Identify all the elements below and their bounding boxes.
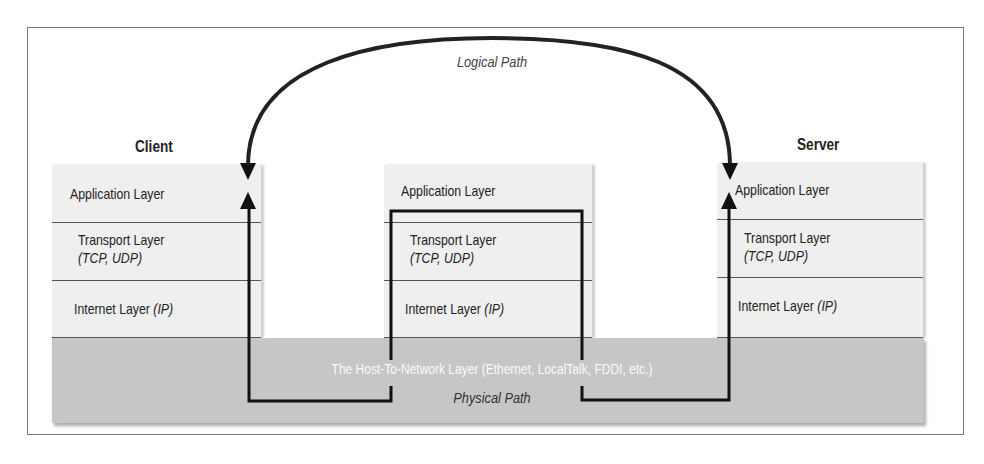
physical-path-client-segment [249,206,391,401]
arrowhead-up-server-icon [721,192,737,209]
arrowhead-down-server-icon [722,163,738,180]
physical-path-intermediate-segment [391,211,582,360]
physical-path-server-segment [582,206,729,400]
logical-path-arc [248,38,730,166]
path-arrows [0,0,984,464]
arrowhead-down-client-icon [240,163,256,180]
